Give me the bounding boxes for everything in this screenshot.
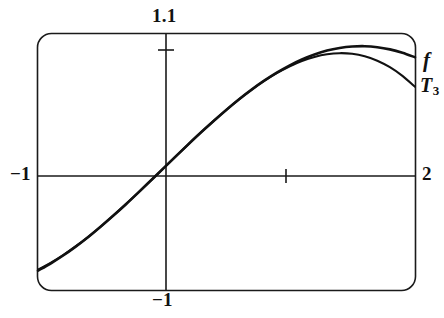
plot-canvas — [0, 0, 444, 318]
graph-figure: 1.1 −1 −1 2 f T3 — [0, 0, 444, 318]
curve-label-f: f — [423, 50, 430, 71]
curve-label-t3-subscript: 3 — [433, 83, 440, 98]
curve-label-t3-base: T — [420, 74, 432, 96]
curve-label-t3: T3 — [420, 75, 439, 97]
axis-label-bottom: −1 — [152, 290, 173, 309]
viewport-frame — [38, 34, 416, 291]
axis-label-top: 1.1 — [152, 6, 176, 25]
axis-label-left: −1 — [10, 164, 31, 183]
axis-label-right: 2 — [422, 164, 432, 183]
